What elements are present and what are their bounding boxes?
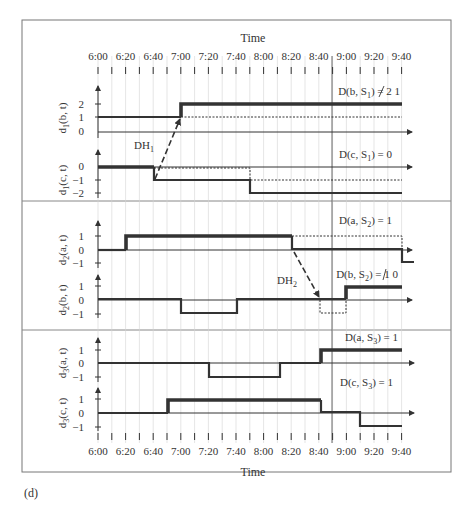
step-line-bold — [321, 350, 402, 363]
y-tick-label: −1 — [72, 308, 84, 320]
y-tick-label: 2 — [79, 98, 85, 110]
x-tick-label: 7:00 — [171, 445, 191, 457]
series-d1-c: 0 −1 −2 d1(c, t) D(c, S1) = 0 — [56, 148, 412, 199]
y-axis-label: d2(a, t) — [56, 235, 71, 266]
x-tick-label: 8:00 — [254, 50, 274, 62]
y-tick-label: 1 — [79, 111, 85, 123]
x-tick-labels-bottom: 6:006:206:407:007:207:408:008:208:409:00… — [88, 445, 412, 457]
y-axis-label: d3(c, t) — [56, 398, 71, 429]
x-tick-label: 9:40 — [392, 445, 412, 457]
y-tick-label: 0 — [79, 407, 85, 419]
step-line-bold — [168, 400, 321, 413]
x-tick-label: 6:20 — [116, 445, 136, 457]
y-tick-label: −1 — [72, 371, 84, 383]
figure-caption: (d) — [24, 486, 38, 501]
annotation-d-a-s2: D(a, S2) = 1 — [339, 214, 392, 229]
x-tick-label: 8:40 — [309, 445, 329, 457]
step-line — [292, 236, 414, 262]
x-tick-label: 8:20 — [281, 445, 301, 457]
step-chart-figure: Time 6:006:206:407:007:207:408:008:208:4… — [0, 0, 469, 530]
x-tick-label: 9:00 — [337, 445, 357, 457]
y-tick-label: 1 — [79, 280, 85, 292]
y-tick-label: 1 — [79, 344, 85, 356]
y-tick-label: 0 — [79, 244, 85, 256]
y-tick-label: 1 — [79, 393, 85, 405]
y-tick-label: 0 — [79, 357, 85, 369]
series-d1-b: 2 1 0 d1(b, t) D(b, S1) = 2 1 — [56, 85, 412, 138]
x-axis-title-top: Time — [241, 31, 266, 45]
dotted-line — [320, 300, 346, 313]
x-tick-marks-top — [98, 67, 402, 74]
x-tick-label: 9:20 — [364, 445, 384, 457]
x-tick-label: 6:40 — [143, 445, 163, 457]
y-axis-label: d2(b, t) — [56, 284, 71, 315]
x-axis-title-bottom: Time — [241, 465, 266, 479]
annotation-d-c-s3: D(c, S3) = 1 — [340, 376, 393, 391]
x-tick-label: 8:00 — [254, 445, 274, 457]
y-tick-label: 0 — [79, 294, 85, 306]
x-tick-label: 9:40 — [392, 50, 412, 62]
x-tick-label: 8:20 — [281, 50, 301, 62]
dh2-arrow — [294, 252, 319, 297]
y-axis-label: d1(c, t) — [56, 165, 71, 196]
x-tick-label: 7:20 — [199, 50, 219, 62]
x-tick-marks-bottom — [98, 433, 402, 440]
step-line-bold — [126, 236, 292, 250]
y-tick-label: −1 — [72, 421, 84, 433]
series-d2-b: 1 0 −1 d2(b, t) D(b, S2) = 1 0 — [56, 268, 412, 320]
y-tick-label: −2 — [72, 187, 84, 199]
x-tick-label: 9:20 — [364, 50, 384, 62]
x-tick-label: 6:00 — [88, 445, 108, 457]
dotted-line — [154, 168, 402, 180]
x-tick-label: 6:00 — [88, 50, 108, 62]
x-tick-label: 6:20 — [116, 50, 136, 62]
x-tick-label: 7:40 — [226, 445, 246, 457]
y-tick-label: 1 — [79, 230, 85, 242]
x-tick-label: 6:40 — [143, 50, 163, 62]
y-axis-label: d3(a, t) — [56, 348, 71, 379]
y-tick-label: 0 — [79, 125, 85, 137]
dh1-arrow — [155, 119, 180, 179]
y-axis-label: d1(b, t) — [56, 102, 71, 133]
step-line — [98, 363, 321, 377]
dh1-label: DH1 — [134, 139, 154, 154]
annotation-d-c-s1: D(c, S1) = 0 — [339, 148, 392, 163]
annotation-d-b-s1: D(b, S1) = 2 1 — [338, 85, 400, 100]
x-tick-label: 7:00 — [171, 50, 191, 62]
dh2-label: DH2 — [277, 274, 297, 289]
panel-s1: 2 1 0 d1(b, t) D(b, S1) = 2 1 0 −1 −2 d1… — [56, 85, 412, 199]
x-tick-label: 8:40 — [309, 50, 329, 62]
step-line — [154, 167, 402, 193]
y-tick-label: −1 — [72, 174, 84, 186]
x-tick-label: 7:40 — [226, 50, 246, 62]
y-tick-label: 0 — [79, 160, 85, 172]
x-tick-label: 9:00 — [337, 50, 357, 62]
x-tick-label: 7:20 — [199, 445, 219, 457]
annotation-d-b-s2: D(b, S2) = 1 0 — [336, 268, 398, 283]
annotation-d-a-s3: D(a, S3) = 1 — [345, 331, 398, 346]
y-tick-label: −1 — [72, 257, 84, 269]
